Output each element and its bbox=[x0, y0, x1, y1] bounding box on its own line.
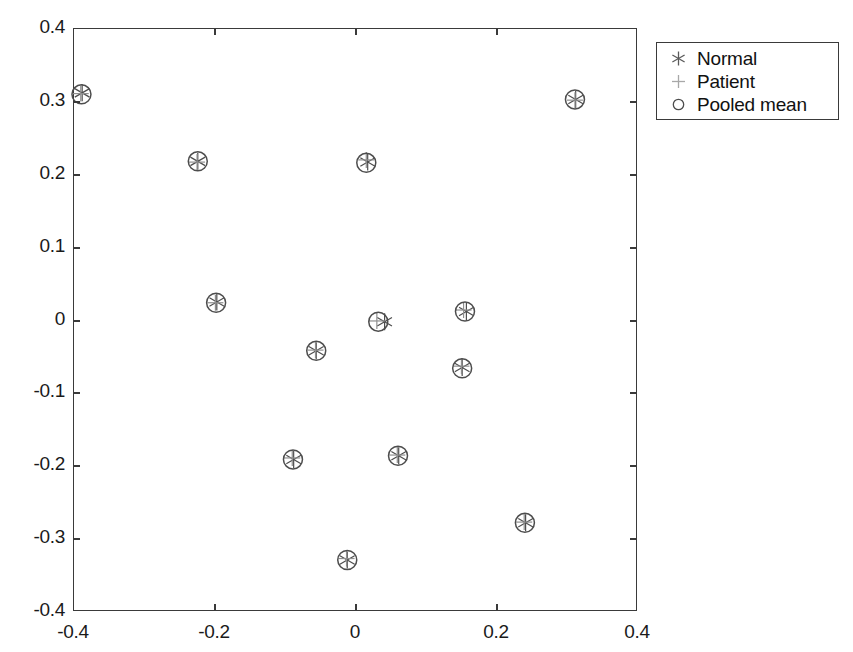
y-tick-label: -0.4 bbox=[5, 599, 65, 621]
y-tick-mark bbox=[73, 320, 80, 322]
plus-icon bbox=[665, 73, 691, 90]
x-tick-mark bbox=[214, 28, 216, 35]
y-tick-mark bbox=[73, 174, 80, 176]
y-tick-mark bbox=[73, 101, 80, 103]
y-tick-mark bbox=[630, 320, 637, 322]
legend-label-normal: Normal bbox=[697, 48, 757, 70]
y-tick-mark bbox=[73, 247, 80, 249]
y-tick-label: 0.3 bbox=[5, 89, 65, 111]
chart-legend: Normal Patient Pooled mean bbox=[656, 42, 839, 120]
y-tick-mark bbox=[630, 538, 637, 540]
y-tick-label: 0.2 bbox=[5, 162, 65, 184]
x-tick-label: 0 bbox=[315, 621, 395, 643]
y-tick-mark bbox=[630, 392, 637, 394]
x-tick-mark bbox=[214, 604, 216, 611]
x-tick-label: 0.4 bbox=[597, 621, 677, 643]
y-tick-mark bbox=[630, 174, 637, 176]
y-tick-label: -0.3 bbox=[5, 526, 65, 548]
plot-axes-frame bbox=[73, 28, 637, 611]
x-tick-mark bbox=[355, 604, 357, 611]
circle-icon bbox=[665, 96, 691, 113]
y-tick-label: 0 bbox=[5, 308, 65, 330]
scatter-plot-figure: 0.40.30.20.10-0.1-0.2-0.3-0.4 -0.4-0.200… bbox=[0, 0, 853, 652]
y-tick-mark bbox=[630, 247, 637, 249]
y-tick-label: -0.2 bbox=[5, 453, 65, 475]
x-tick-label: 0.2 bbox=[456, 621, 536, 643]
legend-label-patient: Patient bbox=[697, 71, 755, 93]
asterisk-icon bbox=[665, 50, 691, 67]
y-tick-label: 0.4 bbox=[5, 16, 65, 38]
x-tick-mark bbox=[496, 28, 498, 35]
y-tick-mark bbox=[73, 465, 80, 467]
x-tick-label: -0.4 bbox=[33, 621, 113, 643]
y-tick-mark bbox=[630, 465, 637, 467]
x-tick-mark bbox=[355, 28, 357, 35]
y-tick-label: 0.1 bbox=[5, 235, 65, 257]
legend-item-pooled-mean: Pooled mean bbox=[665, 93, 828, 116]
x-tick-label: -0.2 bbox=[174, 621, 254, 643]
legend-item-patient: Patient bbox=[665, 70, 828, 93]
y-tick-label: -0.1 bbox=[5, 380, 65, 402]
y-tick-mark bbox=[73, 392, 80, 394]
y-tick-mark bbox=[630, 101, 637, 103]
x-tick-mark bbox=[496, 604, 498, 611]
legend-item-normal: Normal bbox=[665, 47, 828, 70]
y-tick-mark bbox=[73, 538, 80, 540]
legend-label-pooled-mean: Pooled mean bbox=[697, 94, 807, 116]
